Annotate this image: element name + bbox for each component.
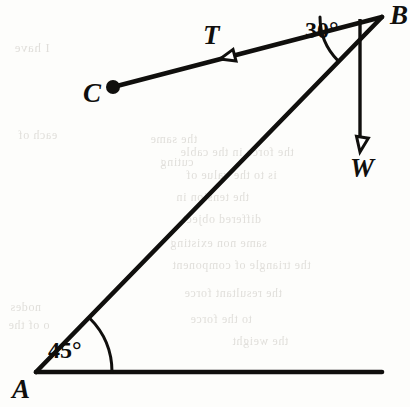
point-label-A: A (12, 376, 30, 403)
angle-arc-group (90, 17, 338, 372)
weight-W-arrowhead (354, 136, 368, 153)
boom-AB (36, 17, 382, 372)
figure-canvas: I haveeach ofthe samecutingthe force in … (0, 0, 410, 407)
tension-T-arrowhead (218, 49, 236, 64)
point-label-B: B (390, 2, 408, 29)
segment-group (36, 17, 382, 372)
vector-label-tension-T: T (203, 22, 220, 49)
angle-label-45: 45° (48, 338, 82, 362)
point-label-C: C (83, 80, 101, 107)
point-marker-C (106, 80, 120, 94)
vector-label-weight-W: W (350, 155, 374, 182)
point-marker-group (106, 80, 120, 94)
angle-label-30: 30° (305, 18, 339, 42)
angle-at-A-arc (90, 318, 112, 372)
cable-BC (113, 17, 382, 87)
